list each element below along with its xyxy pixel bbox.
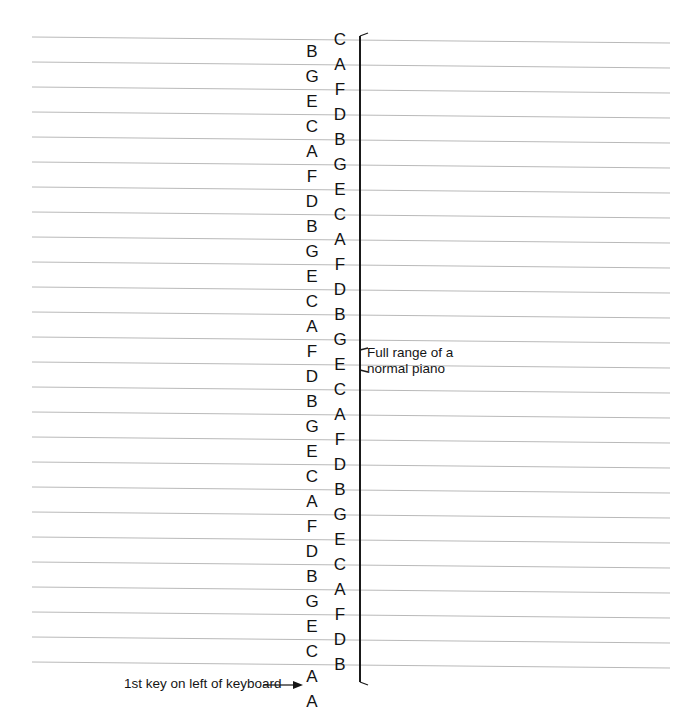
diagram-canvas: BGECAFDBGECAFDBGECAFDBGECAA CAFDBGECAFDB… <box>0 0 697 724</box>
space-note-letter: C <box>303 643 321 660</box>
line-note-letter: C <box>331 31 349 48</box>
space-note-letter: F <box>303 343 321 360</box>
space-note-letter: E <box>303 93 321 110</box>
space-note-letter: B <box>303 393 321 410</box>
space-note-letter: B <box>303 218 321 235</box>
space-note-letter: C <box>303 118 321 135</box>
staff-line <box>32 387 670 393</box>
staff-line <box>32 462 670 468</box>
space-note-letter: C <box>303 468 321 485</box>
staff-line <box>32 537 670 543</box>
staff-line <box>32 87 670 93</box>
line-note-letter: E <box>331 356 349 373</box>
staff-line <box>32 162 670 168</box>
space-note-letter: E <box>303 443 321 460</box>
staff-line <box>32 62 670 68</box>
line-note-letter: B <box>331 306 349 323</box>
line-note-letter: G <box>331 331 349 348</box>
staff-line <box>32 412 670 418</box>
first-key-label: 1st key on left of keyboard <box>124 676 282 692</box>
space-note-letter: G <box>303 418 321 435</box>
space-note-letter: D <box>303 368 321 385</box>
staff-line <box>32 437 670 443</box>
first-key-note-letter: A <box>303 693 321 710</box>
line-note-letter: C <box>331 206 349 223</box>
line-note-letter: F <box>331 256 349 273</box>
line-note-letter: B <box>331 656 349 673</box>
staff-line <box>32 262 670 268</box>
staff-line <box>32 187 670 193</box>
line-note-letter: D <box>331 106 349 123</box>
space-note-letter: D <box>303 543 321 560</box>
space-note-letter: G <box>303 243 321 260</box>
line-note-letter: F <box>331 81 349 98</box>
space-note-letter: G <box>303 68 321 85</box>
staff-line <box>32 312 670 318</box>
staff-line <box>32 112 670 118</box>
line-note-letter: A <box>331 231 349 248</box>
line-note-letter: A <box>331 581 349 598</box>
line-note-letter: A <box>331 56 349 73</box>
staff-line <box>32 612 670 618</box>
line-note-letter: C <box>331 381 349 398</box>
line-note-letter: C <box>331 556 349 573</box>
space-note-letter: D <box>303 193 321 210</box>
space-note-letter: A <box>303 493 321 510</box>
space-note-letter: F <box>303 518 321 535</box>
staff-line <box>32 587 670 593</box>
staff-line <box>32 137 670 143</box>
space-note-letter: B <box>303 43 321 60</box>
line-note-letter: D <box>331 456 349 473</box>
staff-line <box>32 512 670 518</box>
space-note-letter: B <box>303 568 321 585</box>
space-note-letter: E <box>303 268 321 285</box>
line-note-letter: F <box>331 431 349 448</box>
staff-line <box>32 487 670 493</box>
line-note-letter: G <box>331 506 349 523</box>
staff-line <box>32 662 670 668</box>
space-note-letter: A <box>303 318 321 335</box>
space-note-letter: A <box>303 668 321 685</box>
staff-line <box>32 337 670 343</box>
space-note-letter: G <box>303 593 321 610</box>
staff-line <box>32 562 670 568</box>
space-note-letter: A <box>303 143 321 160</box>
line-note-letter: A <box>331 406 349 423</box>
line-note-letter: E <box>331 181 349 198</box>
space-note-letter: F <box>303 168 321 185</box>
line-note-letter: G <box>331 156 349 173</box>
line-note-letter: D <box>331 631 349 648</box>
staff-line <box>32 362 670 368</box>
line-note-letter: E <box>331 531 349 548</box>
space-note-letter: E <box>303 618 321 635</box>
piano-range-label: Full range of a normal piano <box>367 345 453 377</box>
staff-line <box>32 637 670 643</box>
staff-line <box>32 212 670 218</box>
line-note-letter: D <box>331 281 349 298</box>
line-note-letter: B <box>331 131 349 148</box>
space-note-letter: C <box>303 293 321 310</box>
line-note-letter: F <box>331 606 349 623</box>
staff-line <box>32 37 670 43</box>
staff-line <box>32 287 670 293</box>
line-note-letter: B <box>331 481 349 498</box>
staff-line <box>32 237 670 243</box>
